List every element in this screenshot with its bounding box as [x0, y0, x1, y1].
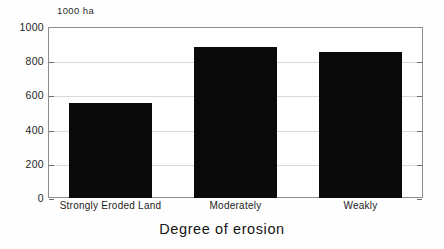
y-axis-tick-label: 1000: [2, 21, 44, 33]
x-axis-category-label: Strongly Eroded Land: [60, 200, 162, 211]
y-axis-tick-label: 800: [2, 55, 44, 67]
y-axis-tick-label: 200: [2, 158, 44, 170]
y-axis-tick-label: 600: [2, 89, 44, 101]
x-axis-title: Degree of erosion: [0, 221, 444, 237]
x-axis-category-labels: Strongly Eroded LandModeratelyWeakly: [48, 200, 423, 216]
y-axis-tick-label: 400: [2, 124, 44, 136]
bar: [69, 103, 152, 198]
bar: [194, 47, 277, 198]
x-axis-category-label: Weakly: [343, 200, 377, 211]
bars-group: [48, 27, 423, 198]
y-axis-unit-label: 1000 ha: [57, 5, 94, 16]
bar-chart-figure: 1000 ha 02004006008001000 Strongly Erode…: [0, 0, 444, 249]
x-axis-category-label: Moderately: [210, 200, 262, 211]
bar: [319, 52, 402, 198]
y-axis-tick-label: 0: [2, 192, 44, 204]
y-axis-tick-labels: 02004006008001000: [0, 27, 44, 198]
